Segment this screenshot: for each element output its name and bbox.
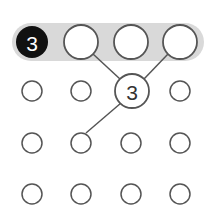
- small-node[interactable]: [170, 184, 190, 204]
- row-4: [22, 184, 190, 204]
- puzzle-diagram: 3 3: [0, 0, 211, 214]
- small-node[interactable]: [71, 81, 91, 101]
- large-empty-node[interactable]: [163, 25, 197, 59]
- small-node[interactable]: [121, 184, 141, 204]
- small-node[interactable]: [121, 133, 141, 153]
- small-node[interactable]: [22, 133, 42, 153]
- large-empty-node[interactable]: [64, 25, 98, 59]
- black-node-number: 3: [26, 32, 38, 55]
- large-empty-node[interactable]: [114, 25, 148, 59]
- small-node[interactable]: [22, 81, 42, 101]
- connector-line: [86, 103, 121, 133]
- small-node[interactable]: [170, 133, 190, 153]
- row-2: [22, 81, 190, 101]
- small-node[interactable]: [71, 184, 91, 204]
- small-node[interactable]: [22, 184, 42, 204]
- small-node[interactable]: [71, 133, 91, 153]
- small-node[interactable]: [170, 81, 190, 101]
- row-3: [22, 133, 190, 153]
- center-node-number: 3: [126, 81, 138, 104]
